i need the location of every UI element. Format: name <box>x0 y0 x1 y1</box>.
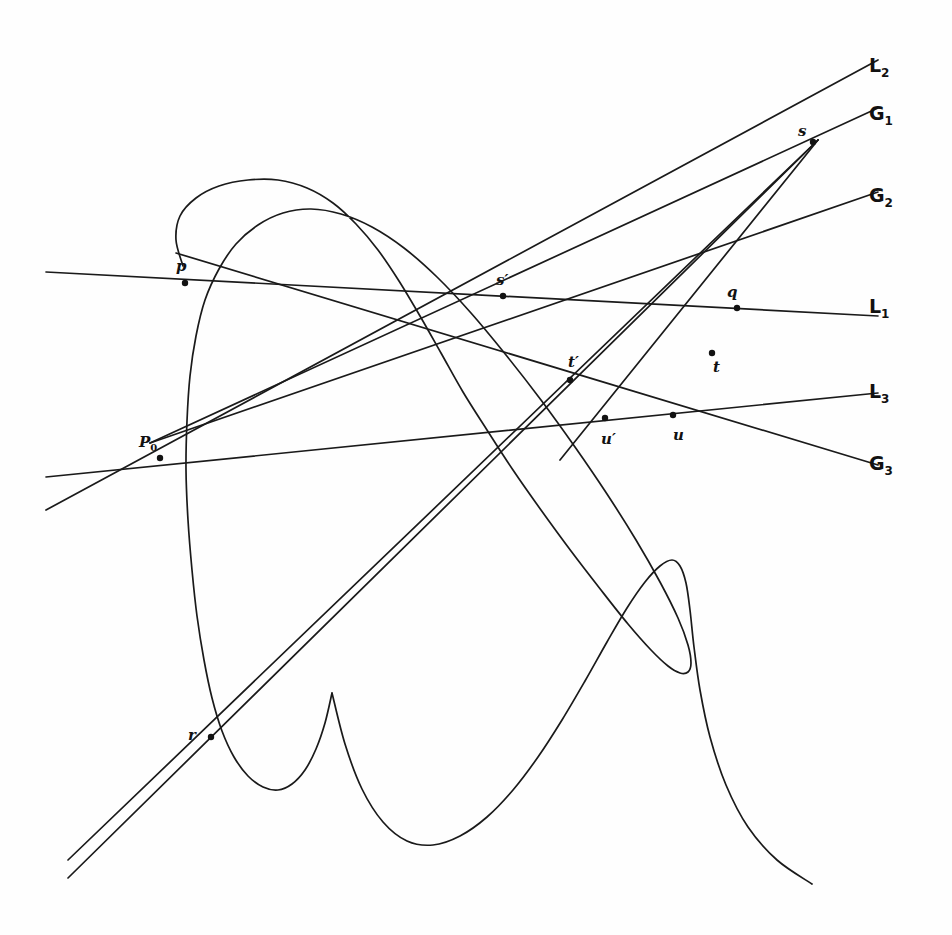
point-label-t: t <box>713 358 720 376</box>
intersection-dot-r <box>208 734 214 740</box>
intersection-dot-u <box>602 415 608 421</box>
point-label-r: r <box>188 726 197 744</box>
cubic-curve-figure: pP0s′t′u′uqtsr L2G1G2L1L3G3 <box>0 0 952 935</box>
intersection-dot-s <box>810 139 816 145</box>
point-label-P0-subscript: 0 <box>150 442 157 453</box>
intersection-dot-u <box>670 412 676 418</box>
intersection-dot-P <box>157 455 163 461</box>
line-label-G3-subscript: 3 <box>885 464 893 478</box>
line-label-G1-subscript: 1 <box>885 114 893 128</box>
point-label-s-prime-prime: ′ <box>504 271 508 289</box>
point-label-q: q <box>727 283 738 301</box>
point-label-u-prime: u′ <box>601 430 616 448</box>
intersection-dot-q <box>734 305 740 311</box>
intersection-dot-s <box>500 293 506 299</box>
line-label-L3-subscript: 3 <box>881 392 889 406</box>
point-label-t-prime: t′ <box>568 353 579 371</box>
line-label-L2-subscript: 2 <box>881 66 889 80</box>
point-label-s: s <box>798 122 807 140</box>
point-label-u-prime-prime: ′ <box>612 430 616 448</box>
point-label-p: p <box>176 257 187 275</box>
figure-root: pP0s′t′u′uqtsr L2G1G2L1L3G3 <box>0 0 952 935</box>
point-label-u: u <box>673 426 684 444</box>
intersection-dot-t <box>567 377 573 383</box>
point-label-t-prime-prime: ′ <box>575 353 579 371</box>
line-label-G2-subscript: 2 <box>885 196 893 210</box>
intersection-dot-p <box>182 280 188 286</box>
line-label-L1-subscript: 1 <box>881 307 889 321</box>
intersection-dot-t <box>709 350 715 356</box>
point-label-s-prime: s′ <box>496 271 508 289</box>
